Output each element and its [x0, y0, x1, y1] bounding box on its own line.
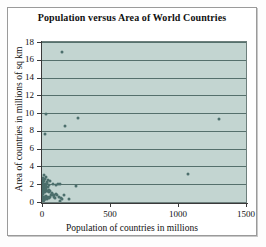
chart-figure: Population versus Area of World Countrie… [0, 0, 266, 247]
data-point [51, 183, 54, 186]
plot-area [41, 41, 247, 203]
data-point [68, 198, 71, 201]
data-point [47, 184, 50, 187]
gridline-y-18 [42, 42, 246, 43]
data-point [53, 197, 56, 200]
x-tick-mark-1000 [178, 203, 179, 207]
data-point [58, 199, 61, 202]
data-point [64, 125, 67, 128]
x-tick-label-1000: 1000 [158, 209, 198, 219]
data-point [54, 183, 57, 186]
y-tick-mark-4 [37, 166, 42, 167]
y-tick-mark-12 [37, 95, 42, 96]
data-point [43, 190, 46, 193]
x-axis-title: Population of countries in millions [12, 223, 252, 233]
gridline-y-12 [42, 95, 246, 96]
y-tick-mark-16 [37, 60, 42, 61]
y-axis-line [41, 41, 42, 204]
data-point [77, 116, 80, 119]
data-point [43, 133, 46, 136]
gridline-y-14 [42, 78, 246, 79]
chart-title: Population versus Area of World Countrie… [12, 12, 252, 24]
y-tick-mark-14 [37, 78, 42, 79]
data-point [186, 173, 189, 176]
gridline-y-6 [42, 149, 246, 150]
data-point [51, 192, 54, 195]
gridline-y-4 [42, 166, 246, 167]
y-tick-mark-10 [37, 113, 42, 114]
x-tick-label-0: 0 [22, 209, 62, 219]
y-tick-mark-2 [37, 184, 42, 185]
data-point [61, 198, 64, 201]
y-axis-title: Area of countries in millions of sq km [14, 34, 24, 204]
y-tick-mark-8 [37, 131, 42, 132]
y-tick-mark-6 [37, 149, 42, 150]
x-axis-line [41, 203, 248, 204]
data-point [45, 112, 48, 115]
gridline-y-10 [42, 113, 246, 114]
gridline-y-2 [42, 184, 246, 185]
x-tick-mark-1500 [246, 203, 247, 207]
data-point [58, 183, 61, 186]
x-tick-mark-500 [110, 203, 111, 207]
y-tick-mark-18 [37, 42, 42, 43]
data-point [75, 185, 78, 188]
x-tick-label-500: 500 [90, 209, 130, 219]
x-tick-mark-0 [42, 203, 43, 207]
gridline-y-8 [42, 131, 246, 132]
x-tick-label-1500: 1500 [226, 209, 266, 219]
data-point [60, 50, 63, 53]
gridline-y-16 [42, 60, 246, 61]
data-point [62, 193, 65, 196]
data-point [217, 117, 220, 120]
